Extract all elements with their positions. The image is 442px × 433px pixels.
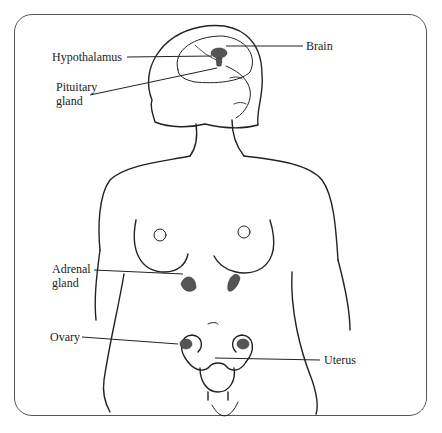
body-illustration bbox=[0, 0, 442, 433]
hypothalamus-shape bbox=[211, 48, 227, 58]
label-hypothalamus: Hypothalamus bbox=[52, 50, 122, 64]
label-pituitary-line1: Pituitary bbox=[56, 80, 97, 94]
label-brain: Brain bbox=[306, 39, 333, 53]
ovary-left-shape bbox=[180, 339, 192, 349]
adrenal-right-shape bbox=[228, 274, 240, 291]
label-adrenal-line2: gland bbox=[52, 276, 79, 290]
pituitary-shape bbox=[216, 58, 222, 66]
label-pituitary-line2: gland bbox=[56, 94, 83, 108]
label-adrenal-line1: Adrenal bbox=[52, 262, 91, 276]
label-uterus: Uterus bbox=[324, 353, 356, 367]
ovary-right-shape bbox=[237, 339, 249, 349]
adrenal-left-shape bbox=[181, 277, 196, 291]
label-ovary: Ovary bbox=[50, 330, 80, 344]
